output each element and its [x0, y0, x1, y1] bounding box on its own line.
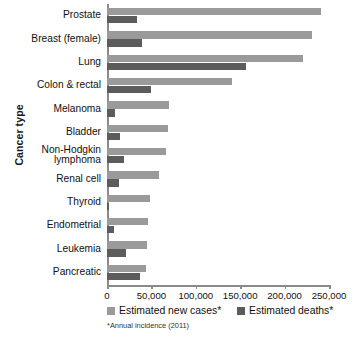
- legend-swatch-deaths: [237, 307, 245, 315]
- x-axis-tick-label: 0: [104, 290, 109, 301]
- bar-new-cases: [107, 241, 147, 248]
- legend-label: Estimated deaths*: [249, 305, 333, 316]
- x-axis-tick: [329, 285, 331, 289]
- bar-deaths: [107, 39, 142, 46]
- bar-new-cases: [107, 148, 166, 155]
- category-label: Prostate: [0, 10, 101, 21]
- bar-new-cases: [107, 101, 169, 108]
- bar-deaths: [107, 156, 124, 163]
- bar-group: [107, 214, 329, 237]
- bar-new-cases: [107, 125, 168, 132]
- legend-item: Estimated new cases*: [107, 305, 221, 316]
- x-axis-tick: [107, 285, 109, 289]
- legend-label: Estimated new cases*: [119, 305, 221, 316]
- category-label: Pancreatic: [0, 267, 101, 278]
- category-label: Non-Hodgkinlymphoma: [0, 145, 101, 167]
- legend-item: Estimated deaths*: [237, 305, 333, 316]
- x-axis-tick-label: 50,000: [137, 290, 166, 301]
- category-label: Leukemia: [0, 244, 101, 255]
- bar-deaths: [107, 133, 120, 140]
- bar-new-cases: [107, 265, 146, 272]
- bar-new-cases: [107, 78, 232, 85]
- x-axis-tick: [196, 285, 198, 289]
- bar-new-cases: [107, 195, 150, 202]
- category-label: Bladder: [0, 127, 101, 138]
- category-label: Lung: [0, 57, 101, 68]
- x-axis-line: [107, 285, 329, 287]
- x-axis-tick-label: 200,000: [267, 290, 302, 301]
- bar-group: [107, 191, 329, 214]
- bar-deaths: [107, 203, 109, 210]
- bar-deaths: [107, 63, 246, 70]
- category-label: Renal cell: [0, 174, 101, 185]
- chart-legend: Estimated new cases*Estimated deaths*: [107, 305, 357, 318]
- x-axis-tick: [240, 285, 242, 289]
- x-axis-tick: [285, 285, 287, 289]
- bar-deaths: [107, 226, 114, 233]
- bar-group: [107, 144, 329, 167]
- bar-deaths: [107, 109, 115, 116]
- x-axis-tick-label: 100,000: [178, 290, 213, 301]
- bar-group: [107, 74, 329, 97]
- category-label: Thyroid: [0, 197, 101, 208]
- x-axis-tick-label: 150,000: [223, 290, 258, 301]
- category-label: Endometrial: [0, 220, 101, 231]
- bar-group: [107, 4, 329, 27]
- bar-group: [107, 27, 329, 50]
- category-label: Breast (female): [0, 34, 101, 45]
- bar-chart: Cancer type ProstateBreast (female)LungC…: [0, 0, 357, 339]
- bar-new-cases: [107, 218, 148, 225]
- bar-deaths: [107, 249, 126, 256]
- bar-deaths: [107, 179, 119, 186]
- legend-swatch-cases: [107, 307, 115, 315]
- category-axis-labels: ProstateBreast (female)LungColon & recta…: [0, 4, 103, 284]
- bar-group: [107, 97, 329, 120]
- x-axis-tick-label: 250,000: [312, 290, 347, 301]
- x-axis-tick: [151, 285, 153, 289]
- category-label: Melanoma: [0, 104, 101, 115]
- category-label: Colon & rectal: [0, 80, 101, 91]
- bar-group: [107, 237, 329, 260]
- bar-group: [107, 51, 329, 74]
- bar-new-cases: [107, 55, 303, 62]
- bar-deaths: [107, 273, 140, 280]
- bar-group: [107, 121, 329, 144]
- chart-footnote: *Annual incidence (2011): [107, 321, 189, 330]
- bar-deaths: [107, 86, 151, 93]
- bar-new-cases: [107, 8, 321, 15]
- bar-group: [107, 167, 329, 190]
- bar-deaths: [107, 16, 137, 23]
- bar-new-cases: [107, 171, 159, 178]
- bar-group: [107, 261, 329, 284]
- bar-new-cases: [107, 31, 312, 38]
- plot-area: [107, 4, 329, 284]
